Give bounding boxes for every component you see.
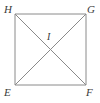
vertex-label-h: H	[4, 4, 12, 15]
geometry-figure: H G E F I	[0, 0, 100, 103]
vertex-label-e: E	[4, 87, 11, 98]
vertex-label-i-center: I	[47, 31, 50, 42]
square-with-diagonals-svg	[0, 0, 100, 103]
vertex-label-f: F	[86, 87, 93, 98]
vertex-label-g: G	[87, 4, 95, 15]
